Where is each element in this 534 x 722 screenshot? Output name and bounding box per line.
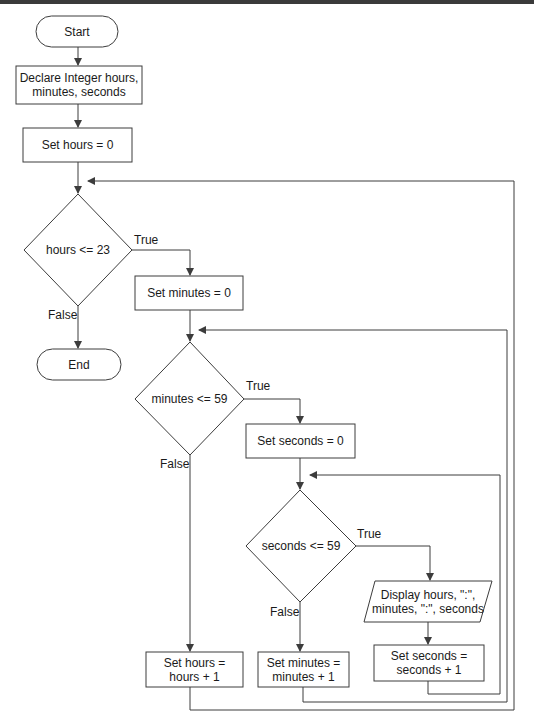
seconds-check-label: seconds <= 59: [262, 539, 341, 553]
inc-minutes-label-line2: minutes + 1: [272, 670, 334, 684]
minutes-false-label: False: [160, 457, 189, 471]
inc-hours-label-line2: hours + 1: [169, 670, 219, 684]
set-hours-0-node: Set hours = 0: [23, 128, 132, 162]
minutes-true-label: True: [246, 379, 270, 393]
declare-label-line1: Declare Integer hours,: [20, 71, 139, 85]
inc-minutes-label-line1: Set minutes =: [267, 656, 341, 670]
hours-check-label: hours <= 23: [46, 243, 110, 257]
edge-seconds-true-display: [356, 546, 430, 580]
set-minutes-0-node: Set minutes = 0: [135, 276, 243, 310]
declare-node: Declare Integer hours, minutes, seconds: [16, 66, 142, 104]
seconds-false-label: False: [270, 605, 299, 619]
seconds-check-node: seconds <= 59: [246, 536, 356, 556]
inc-minutes-node: Set minutes = minutes + 1: [258, 652, 349, 687]
hours-check-node: hours <= 23: [24, 240, 132, 260]
seconds-true-label: True: [357, 527, 381, 541]
declare-label-line2: minutes, seconds: [32, 85, 125, 99]
end-node: End: [37, 349, 121, 380]
end-label: End: [68, 358, 89, 372]
hours-true-label: True: [134, 233, 158, 247]
hours-false-label: False: [48, 308, 77, 322]
minutes-check-node: minutes <= 59: [135, 389, 244, 409]
minutes-check-label: minutes <= 59: [151, 392, 227, 406]
set-hours-0-label: Set hours = 0: [42, 138, 114, 152]
start-label: Start: [64, 25, 89, 39]
edge-hours-true-setminutes: [132, 250, 190, 275]
start-node: Start: [36, 16, 118, 47]
inc-seconds-label-line1: Set seconds =: [391, 649, 467, 663]
inc-seconds-node: Set seconds = seconds + 1: [374, 645, 484, 681]
inc-hours-label-line1: Set hours =: [164, 656, 226, 670]
edge-minutes-true-setseconds: [244, 399, 300, 423]
inc-seconds-label-line2: seconds + 1: [396, 663, 461, 677]
inc-hours-node: Set hours = hours + 1: [146, 652, 243, 687]
set-minutes-0-label: Set minutes = 0: [147, 286, 231, 300]
set-seconds-0-node: Set seconds = 0: [246, 424, 355, 458]
display-node: Display hours, ":", minutes, ":", second…: [368, 581, 488, 622]
set-seconds-0-label: Set seconds = 0: [257, 434, 343, 448]
display-label-line2: minutes, ":", seconds: [372, 602, 484, 616]
display-label-line1: Display hours, ":",: [381, 588, 476, 602]
